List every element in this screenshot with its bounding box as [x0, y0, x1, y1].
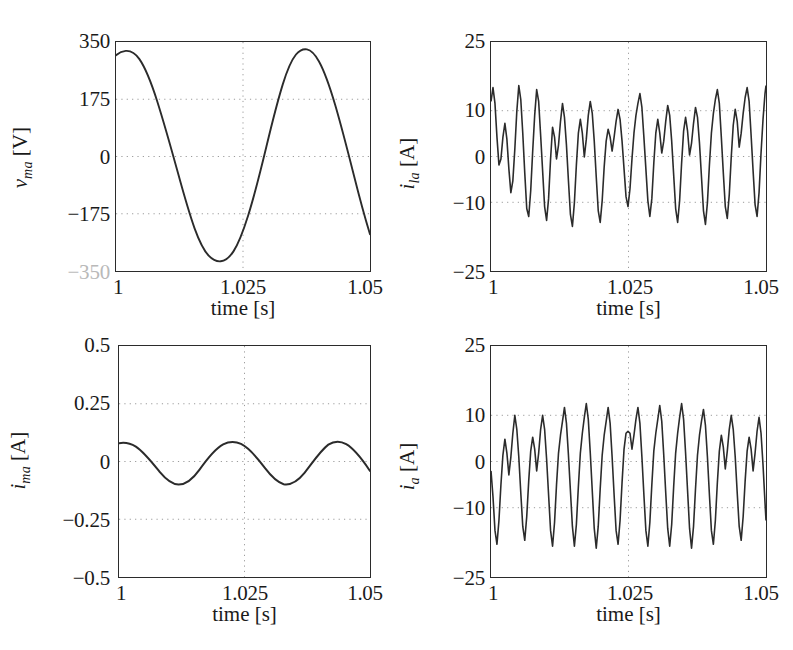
- ytick: 10: [464, 98, 485, 123]
- ytick: −175: [67, 202, 110, 227]
- gridlines: [119, 346, 370, 577]
- y-axis-variable: i: [6, 484, 30, 490]
- y-axis-variable: v: [8, 179, 32, 188]
- ytick: 0: [475, 449, 485, 474]
- y-axis-unit: [A]: [395, 138, 419, 167]
- panel-ima-plot-area: [118, 345, 371, 578]
- ytick: 0: [475, 144, 485, 169]
- ytick: 350: [79, 29, 110, 54]
- panel-ima-svg: [119, 346, 370, 577]
- panel-ila-svg: [491, 42, 766, 271]
- panel-ila-y-axis-label: ila [A]: [395, 110, 422, 218]
- panel-vma: 350 175 0 −175 −350 vma [V] 1 1.025: [0, 0, 396, 325]
- waveform-ia: [491, 404, 766, 549]
- y-axis-variable: i: [395, 484, 419, 490]
- panel-ila-x-axis-label: time [s]: [490, 296, 767, 321]
- panel-ia: 25 10 0 −10 −25 ia [A] 1 1.025 1.0: [397, 325, 793, 650]
- panel-ia-plot-area: [490, 345, 767, 578]
- panel-ima: 0.5 0.25 0 −0.25 −0.5 ima [A] 1 1.025: [0, 325, 396, 650]
- panel-ima-x-axis-label: time [s]: [118, 602, 371, 627]
- gridlines: [116, 42, 370, 271]
- y-axis-subscript: la: [407, 172, 422, 183]
- four-panel-waveform-figure: 350 175 0 −175 −350 vma [V] 1 1.025: [0, 0, 793, 650]
- panel-vma-x-axis-label: time [s]: [115, 296, 371, 321]
- ytick: 0: [100, 144, 110, 169]
- ytick: −10: [453, 190, 485, 215]
- ytick: 10: [464, 402, 485, 427]
- panel-ila: 25 10 0 −10 −25 ila [A] 1 1.025 1.: [397, 0, 793, 325]
- panel-ia-x-axis-label: time [s]: [490, 602, 767, 627]
- panel-vma-plot-area: [115, 41, 371, 272]
- ytick: 0.25: [74, 391, 110, 416]
- ytick: 25: [464, 29, 485, 54]
- ytick: −0.5: [73, 566, 110, 591]
- panel-vma-y-axis-label: vma [V]: [8, 100, 35, 216]
- y-axis-unit: [A]: [395, 443, 419, 472]
- y-axis-subscript: ma: [18, 466, 33, 484]
- ytick: 175: [79, 86, 110, 111]
- ytick: −350: [67, 260, 110, 285]
- ytick: −10: [453, 496, 485, 521]
- y-axis-unit: [V]: [8, 127, 32, 156]
- ytick: −0.25: [62, 507, 110, 532]
- y-axis-subscript: a: [407, 477, 422, 484]
- panel-ia-svg: [491, 346, 766, 577]
- y-axis-variable: i: [395, 184, 419, 190]
- y-axis-subscript: ma: [20, 161, 35, 179]
- ytick: −25: [453, 260, 485, 285]
- y-axis-unit: [A]: [6, 432, 30, 461]
- ytick: 0: [100, 449, 110, 474]
- ytick: −25: [453, 566, 485, 591]
- panel-vma-svg: [116, 42, 370, 271]
- panel-ila-plot-area: [490, 41, 767, 272]
- panel-ia-y-axis-label: ia [A]: [395, 415, 422, 519]
- panel-ima-y-axis-label: ima [A]: [6, 403, 33, 519]
- ytick: 25: [464, 333, 485, 358]
- ytick: 0.5: [84, 333, 110, 358]
